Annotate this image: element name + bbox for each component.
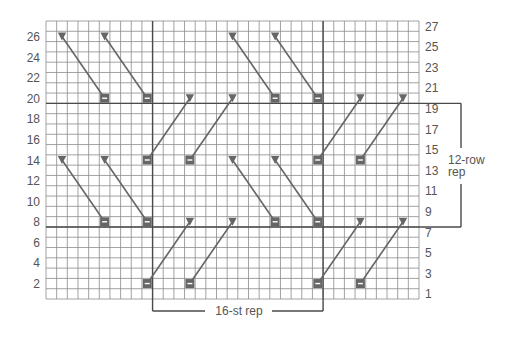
triangle-icon	[228, 32, 236, 40]
row-label-left: 16	[27, 133, 41, 147]
row-label-left: 18	[27, 112, 41, 126]
cable-line	[62, 160, 105, 222]
row-label-left: 6	[33, 236, 40, 250]
row-label-left: 2	[33, 277, 40, 291]
triangle-icon	[186, 218, 194, 226]
row-label-left: 12	[27, 174, 41, 188]
row-label-right: 13	[425, 164, 439, 178]
row-label-right: 21	[425, 81, 439, 95]
triangle-icon	[271, 32, 279, 40]
row-label-right: 1	[425, 287, 432, 301]
row-label-left: 14	[27, 154, 41, 168]
triangle-icon	[228, 218, 236, 226]
row-label-right: 7	[425, 226, 432, 240]
triangle-icon	[58, 156, 66, 164]
triangle-icon	[399, 94, 407, 102]
cable-line	[62, 36, 105, 98]
triangle-icon	[228, 156, 236, 164]
row-label-right: 27	[425, 20, 439, 34]
row-label-left: 10	[27, 195, 41, 209]
row-label-left: 26	[27, 30, 41, 44]
row-label-right: 11	[425, 184, 438, 198]
cable-line	[360, 222, 403, 284]
row-label-right: 25	[425, 40, 439, 54]
cable-line	[105, 160, 148, 222]
cable-line	[105, 36, 148, 98]
row-label-left: 20	[27, 92, 41, 106]
row-label-left: 24	[27, 51, 41, 65]
row-label-right: 9	[425, 205, 432, 219]
row-repeat-label-line2: rep	[448, 165, 466, 179]
row-label-right: 17	[425, 123, 439, 137]
cable-line	[275, 160, 318, 222]
row-label-left: 22	[27, 71, 41, 85]
cable-line	[233, 36, 276, 98]
cable-line	[318, 222, 361, 284]
row-label-right: 23	[425, 61, 439, 75]
triangle-icon	[100, 32, 108, 40]
triangle-icon	[186, 94, 194, 102]
triangle-icon	[228, 94, 236, 102]
triangle-icon	[271, 156, 279, 164]
triangle-icon	[100, 156, 108, 164]
cable-line	[147, 222, 190, 284]
row-label-right: 19	[425, 102, 439, 116]
triangle-icon	[356, 94, 364, 102]
cable-line	[275, 36, 318, 98]
cable-line	[233, 160, 276, 222]
row-label-left: 4	[33, 256, 40, 270]
knitting-chart: 2468101214161820222426135791113151719212…	[0, 0, 509, 341]
triangle-icon	[399, 218, 407, 226]
cable-line	[190, 222, 233, 284]
row-label-left: 8	[33, 215, 40, 229]
row-label-right: 3	[425, 267, 432, 281]
cable-line	[318, 98, 361, 160]
cable-line	[147, 98, 190, 160]
cable-line	[360, 98, 403, 160]
row-label-right: 5	[425, 246, 432, 260]
triangle-icon	[58, 32, 66, 40]
triangle-icon	[356, 218, 364, 226]
row-label-right: 15	[425, 143, 439, 157]
stitch-repeat-label: 16-st rep	[215, 304, 263, 318]
cable-line	[190, 98, 233, 160]
